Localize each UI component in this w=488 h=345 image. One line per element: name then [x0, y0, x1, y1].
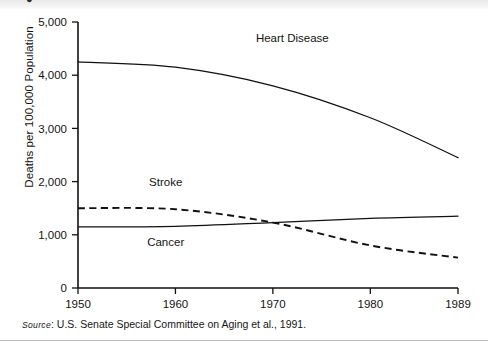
figure-container: ● Deaths per 100,000 Population 01,0002,… [0, 0, 488, 345]
series-label-heart-disease: Heart Disease [256, 32, 329, 44]
chart-area: Deaths per 100,000 Population 01,0002,00… [0, 9, 488, 309]
source-label: Source [22, 320, 51, 330]
series-lines [78, 62, 458, 258]
source-citation: : U.S. Senate Special Committee on Aging… [51, 318, 306, 330]
x-tick-label: 1960 [163, 298, 189, 309]
x-tick-label: 1989 [445, 298, 471, 309]
y-tick-label: 3,000 [38, 123, 67, 135]
source-note: Source: U.S. Senate Special Committee on… [22, 318, 306, 330]
series-label-stroke: Stroke [149, 176, 182, 188]
x-tick-label: 1950 [65, 298, 91, 309]
series-label-cancer: Cancer [147, 236, 184, 248]
y-axis-title: Deaths per 100,000 Population [23, 0, 35, 232]
x-tick-label: 1980 [358, 298, 384, 309]
y-tick-label: 5,000 [38, 16, 67, 28]
y-tick-label: 0 [61, 282, 67, 294]
series-line-heart-disease [78, 62, 458, 158]
y-tick-label: 2,000 [38, 176, 67, 188]
bottom-rule [0, 340, 488, 341]
y-tick-label: 4,000 [38, 69, 67, 81]
series-line-stroke [78, 208, 458, 258]
x-axis: 19501960197019801989 [65, 288, 471, 309]
y-axis: 01,0002,0003,0004,0005,000 [38, 16, 78, 294]
line-chart-svg: 01,0002,0003,0004,0005,000 1950196019701… [0, 9, 488, 309]
figure-header-band: ● [0, 0, 488, 9]
series-labels: Heart DiseaseStrokeCancer [147, 32, 329, 248]
y-tick-label: 1,000 [38, 229, 67, 241]
x-tick-label: 1970 [260, 298, 286, 309]
